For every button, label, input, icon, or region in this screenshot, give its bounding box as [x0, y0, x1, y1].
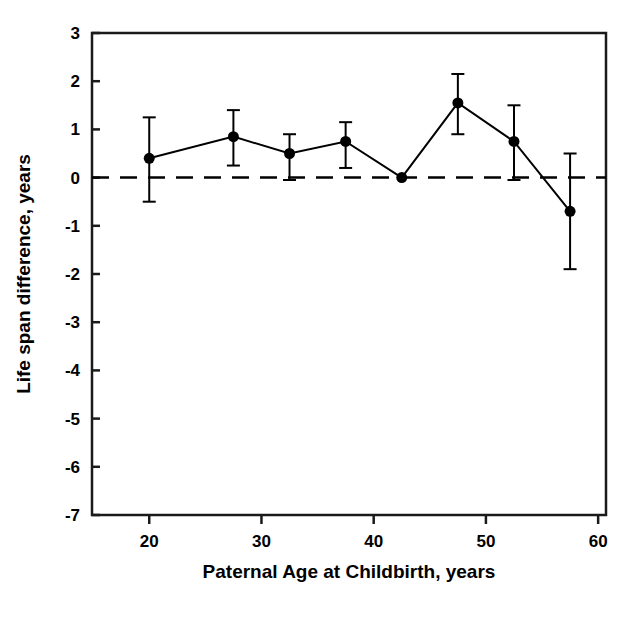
data-point-marker [144, 153, 155, 164]
data-point-marker [284, 148, 295, 159]
x-tick-label: 40 [364, 532, 383, 551]
y-tick-label: 1 [71, 120, 80, 139]
x-tick-label: 20 [140, 532, 159, 551]
plot-frame [92, 33, 606, 515]
data-point-marker [452, 97, 463, 108]
y-tick-label: 0 [71, 169, 80, 188]
y-tick-label: -1 [65, 217, 80, 236]
x-axis-label: Paternal Age at Childbirth, years [203, 561, 496, 582]
x-tick-label: 60 [589, 532, 608, 551]
y-axis-label: Life span difference, years [13, 154, 34, 394]
y-tick-label: -5 [65, 410, 80, 429]
y-tick-label: 3 [71, 24, 80, 43]
data-point-marker [340, 136, 351, 147]
x-axis-ticks: 2030405060 [140, 515, 608, 551]
line-chart-with-error-bars: 3210-1-2-3-4-5-6-7 2030405060 Paternal A… [0, 0, 638, 617]
x-tick-label: 50 [476, 532, 495, 551]
data-point-marker [228, 131, 239, 142]
data-point-marker [565, 206, 576, 217]
y-tick-label: -2 [65, 265, 80, 284]
y-tick-label: -7 [65, 506, 80, 525]
y-tick-label: 2 [71, 72, 80, 91]
data-point-marker [396, 172, 407, 183]
y-tick-label: -4 [65, 361, 81, 380]
x-tick-label: 30 [252, 532, 271, 551]
y-tick-label: -3 [65, 313, 80, 332]
y-tick-label: -6 [65, 458, 80, 477]
chart-figure: 3210-1-2-3-4-5-6-7 2030405060 Paternal A… [0, 0, 638, 617]
data-point-marker [508, 136, 519, 147]
